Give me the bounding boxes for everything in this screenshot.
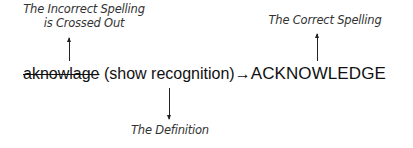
incorrect-spelling: aknowlage [23, 65, 100, 82]
incorrect-label: The Incorrect Spelling is Crossed Out [14, 2, 154, 30]
arrow-up-correct [317, 34, 318, 61]
definition: (show recognition) [104, 65, 235, 82]
correct-spelling: ACKNOWLEDGE [251, 64, 386, 83]
arrow-up-incorrect [69, 38, 70, 61]
incorrect-label-line1: The Incorrect Spelling [14, 2, 154, 16]
dictionary-entry: aknowlage (show recognition)→ACKNOWLEDGE [23, 64, 386, 84]
correct-label: The Correct Spelling [255, 13, 395, 27]
arrow-down-definition [169, 88, 170, 119]
definition-label: The Definition [115, 123, 225, 137]
incorrect-label-line2: is Crossed Out [14, 16, 154, 30]
arrow-right-icon: → [235, 65, 251, 82]
